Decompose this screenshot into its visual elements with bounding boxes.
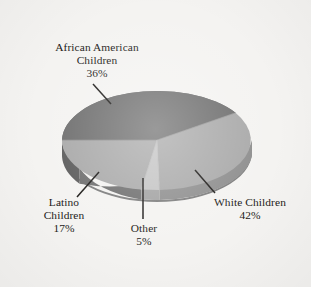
slice-label-african-american: African American Children 36% — [33, 41, 161, 81]
slice-percent-latino: 17% — [22, 222, 106, 235]
slice-percent-other: 5% — [113, 235, 175, 248]
slice-label-latino: Latino Children 17% — [22, 196, 106, 236]
slice-label-white-line1: White Children — [198, 196, 302, 209]
slice-label-latino-line1: Latino — [22, 196, 106, 209]
slice-label-african-american-line1: African American — [33, 41, 161, 54]
slice-label-latino-line2: Children — [22, 209, 106, 222]
pie-chart-figure: African American Children 36% White Chil… — [0, 0, 311, 287]
slice-label-african-american-line2: Children — [33, 54, 161, 67]
slice-percent-white: 42% — [198, 209, 302, 222]
slice-label-white: White Children 42% — [198, 196, 302, 222]
slice-label-other-line1: Other — [113, 222, 175, 235]
slice-percent-african-american: 36% — [33, 67, 161, 80]
slice-label-other: Other 5% — [113, 222, 175, 248]
